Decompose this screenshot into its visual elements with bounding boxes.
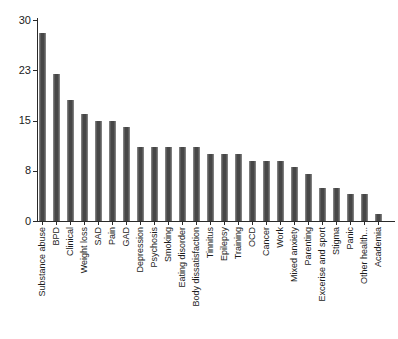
x-axis-label: Substance abuse: [38, 227, 47, 297]
bar: [151, 147, 158, 221]
y-axis-tick: [33, 70, 37, 71]
x-axis-label: Pain: [108, 227, 117, 245]
x-axis-tick: [112, 222, 113, 225]
bar: [179, 147, 186, 221]
bar: [263, 161, 270, 221]
x-axis-label: Weight loss: [80, 227, 89, 273]
x-axis-tick: [140, 222, 141, 225]
bar: [249, 161, 256, 221]
x-axis-label: Stigma: [332, 227, 341, 255]
x-axis-label: Academia: [374, 227, 383, 267]
x-axis-label: Eating disorder: [178, 227, 187, 288]
y-axis-tick: [33, 171, 37, 172]
x-axis-label: Other health...: [360, 227, 369, 284]
bar: [53, 74, 60, 221]
x-axis-label: Psychosis: [150, 227, 159, 268]
bar: [333, 188, 340, 222]
x-axis-tick: [168, 222, 169, 225]
x-axis-label: Parenting: [304, 227, 313, 266]
x-axis-tick: [126, 222, 127, 225]
x-axis-tick: [210, 222, 211, 225]
bar-chart-figure: 08152330Substance abuseBPDClinicalWeight…: [0, 0, 398, 339]
x-axis-tick: [224, 222, 225, 225]
bar: [319, 188, 326, 222]
y-axis-tick-label: 23: [9, 65, 31, 76]
x-axis-label: Epilepsy: [220, 227, 229, 261]
x-axis-tick: [322, 222, 323, 225]
x-axis-tick: [56, 222, 57, 225]
x-axis-label: Tinnitus: [206, 227, 215, 258]
bar: [193, 147, 200, 221]
bar: [361, 194, 368, 221]
x-axis-tick: [84, 222, 85, 225]
x-axis-label: Clinical: [66, 227, 75, 256]
x-axis-tick: [196, 222, 197, 225]
y-axis-tick-label: 15: [9, 115, 31, 126]
x-axis-label: Excerise and sport: [318, 227, 327, 302]
x-axis-tick: [182, 222, 183, 225]
y-axis-tick-label: 8: [9, 165, 31, 176]
x-axis-label: BPD: [52, 227, 61, 246]
x-axis-tick: [336, 222, 337, 225]
y-axis-tick: [33, 221, 37, 222]
x-axis-tick: [294, 222, 295, 225]
x-axis-tick: [70, 222, 71, 225]
x-axis-label: GAD: [122, 227, 131, 247]
x-axis-tick: [378, 222, 379, 225]
bar: [67, 100, 74, 221]
x-axis-label: Mixed anxiety: [290, 227, 299, 282]
y-axis-tick: [33, 121, 37, 122]
bar: [305, 174, 312, 221]
x-axis-label: Training: [234, 227, 243, 259]
x-axis-tick: [98, 222, 99, 225]
bar: [375, 214, 382, 221]
bar: [221, 154, 228, 221]
x-axis-label: SAD: [94, 227, 103, 246]
bar: [95, 121, 102, 222]
x-axis-label: Body dissatisfaction: [192, 227, 201, 307]
bar: [39, 33, 46, 221]
x-axis-label: Cancer: [262, 227, 271, 256]
x-axis-tick: [154, 222, 155, 225]
bar: [277, 161, 284, 221]
bar: [347, 194, 354, 221]
y-axis-tick: [33, 20, 37, 21]
bar: [165, 147, 172, 221]
bar: [207, 154, 214, 221]
x-axis-tick: [280, 222, 281, 225]
bar: [235, 154, 242, 221]
y-axis-tick-label: 30: [9, 15, 31, 26]
x-axis-tick: [266, 222, 267, 225]
x-axis-label: Work: [276, 227, 285, 248]
x-axis-label: Panic: [346, 227, 355, 250]
bar: [137, 147, 144, 221]
x-axis-tick: [238, 222, 239, 225]
x-axis-tick: [252, 222, 253, 225]
y-axis-tick-label: 0: [9, 216, 31, 227]
x-axis-tick: [42, 222, 43, 225]
x-axis-label: OCD: [248, 227, 257, 247]
x-axis-tick: [364, 222, 365, 225]
plot-area: 08152330Substance abuseBPDClinicalWeight…: [0, 0, 398, 339]
x-axis-label: Depression: [136, 227, 145, 273]
bar: [81, 114, 88, 221]
x-axis-tick: [350, 222, 351, 225]
x-axis-label: Smoking: [164, 227, 173, 262]
x-axis-tick: [308, 222, 309, 225]
bar: [291, 167, 298, 221]
x-axis-line: [37, 221, 395, 222]
bar: [109, 121, 116, 222]
bar: [123, 127, 130, 221]
